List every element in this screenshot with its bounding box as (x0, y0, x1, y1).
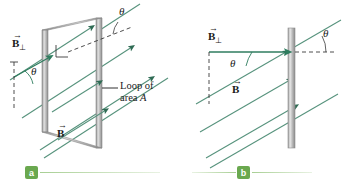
theta-arc-inner-b (246, 52, 252, 66)
caption-letter-a: a (29, 168, 34, 178)
caption-rule-a (40, 172, 160, 173)
loop-frame (42, 18, 102, 148)
loop-plate-edge (288, 28, 295, 148)
theta-label-left-a: θ (31, 66, 36, 77)
caption-rule-b-right (252, 172, 312, 173)
loop-label-line1: Loop of (120, 81, 154, 92)
area-symbol: A (140, 92, 146, 103)
area-prefix: area (120, 92, 140, 103)
b-field-label-b: → B (232, 84, 239, 95)
b-field-label-a: → B (57, 128, 64, 139)
loop-area-label: Loop of area A (120, 81, 154, 103)
panel-b: → B⊥ θ θ → B b (178, 0, 351, 186)
physics-figure: → B⊥ θ θ → B Loop of area A a (0, 0, 351, 186)
theta-label-inner-b: θ (230, 58, 235, 69)
caption-badge-b: b (237, 166, 250, 179)
b-perp-label-a: → B⊥ (12, 38, 26, 52)
theta-label-top-a: θ (119, 6, 124, 17)
theta-arc-top-a (113, 22, 118, 34)
panel-a: → B⊥ θ θ → B Loop of area A a (0, 0, 178, 186)
caption-rule-b-left (192, 172, 236, 173)
vector-accent-icon: → (58, 121, 67, 130)
vector-accent-icon: → (209, 24, 218, 33)
vector-accent-icon: → (13, 31, 22, 40)
b-perp-label-b: → B⊥ (208, 31, 222, 45)
caption-badge-a: a (25, 166, 38, 179)
theta-label-right-b: θ (323, 28, 328, 39)
perp-subscript: ⊥ (215, 36, 222, 45)
perp-subscript: ⊥ (19, 43, 26, 52)
vector-accent-icon: → (233, 77, 242, 86)
caption-letter-b: b (241, 168, 247, 178)
loop-label-line2: area A (120, 93, 154, 104)
